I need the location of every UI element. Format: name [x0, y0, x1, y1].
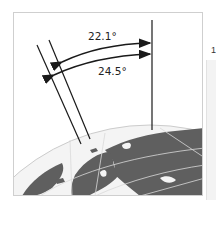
ray-line-inner: [49, 40, 90, 139]
globe: [0, 125, 216, 209]
adjacent-panel-edge: [206, 60, 216, 200]
angle-label-inner: 22.1°: [88, 30, 117, 42]
angle-label-outer: 24.5°: [98, 65, 127, 77]
ray-line-outer: [37, 45, 81, 144]
adjacent-panel-glyph: 1: [211, 45, 216, 55]
